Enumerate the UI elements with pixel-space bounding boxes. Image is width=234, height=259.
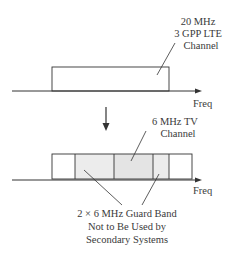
tv-channel-section: 6 MHz TV Channel Freq 2 × 6 MHz Guard Ba… <box>12 116 213 245</box>
axis-arrow-icon <box>195 89 202 94</box>
lte-leader-line <box>157 43 175 75</box>
tv-label-line-1: 6 MHz TV <box>152 116 198 127</box>
freq-label-bottom: Freq <box>193 185 213 196</box>
guard-label-line-1: 2 × 6 MHz Guard Band <box>77 208 177 219</box>
freq-label-top: Freq <box>193 98 213 109</box>
tv-channel-block <box>114 154 153 179</box>
lte-channel-section: 20 MHz 3 GPP LTE Channel Freq <box>12 16 222 109</box>
down-arrow-icon <box>103 107 110 131</box>
lte-label-line-1: 20 MHz <box>181 16 216 27</box>
guard-label-line-3: Secondary Systems <box>86 234 168 245</box>
lte-channel-block <box>52 67 169 91</box>
lte-label-line-2: 3 GPP LTE <box>174 28 222 39</box>
guard-label-line-2: Not to Be Used by <box>88 221 167 232</box>
spectrum-diagram: 20 MHz 3 GPP LTE Channel Freq 6 MHz TV C… <box>0 0 234 259</box>
lte-label-line-3: Channel <box>184 40 219 51</box>
tv-label-line-2: Channel <box>161 128 196 139</box>
axis-arrow-icon <box>195 178 202 183</box>
